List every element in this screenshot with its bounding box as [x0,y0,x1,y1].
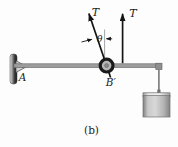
angle-label: θ [97,33,103,44]
figure-caption: (b) [84,124,99,136]
pulley-point-label: B′ [105,76,117,88]
figure-canvas: T T θ A B′ (b) [0,0,178,147]
support-point-label: A [18,71,27,83]
pulley-hub [105,64,109,68]
corner-bracket [156,63,162,69]
weight-cylinder [143,96,170,117]
beam [14,64,161,68]
physics-figure-pulley-beam: T T θ A B′ (b) [0,0,178,147]
